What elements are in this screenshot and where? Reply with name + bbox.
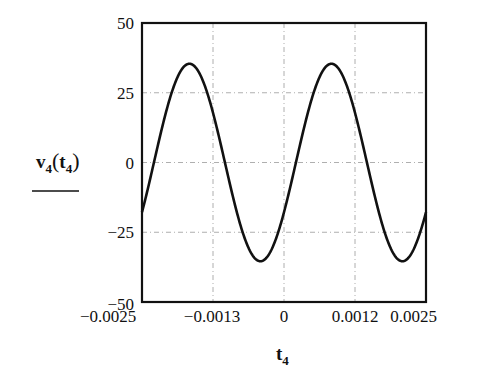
ylabel-func: v (36, 151, 46, 172)
x-tick-label: −0.0025 (80, 307, 136, 326)
svg-text:t4: t4 (276, 343, 289, 368)
chart: 50250−25−50 −0.0025−0.001300.00120.0025 … (0, 0, 482, 388)
x-axis-label: t4 (276, 343, 289, 368)
y-axis-tick-labels: 50250−25−50 (107, 14, 134, 314)
y-tick-label: −25 (107, 223, 134, 242)
x-tick-label: 0 (280, 307, 289, 326)
y-axis-label: v4(t4) (32, 148, 79, 191)
y-tick-label: 50 (117, 14, 134, 33)
x-axis-tick-labels: −0.0025−0.001300.00120.0025 (80, 307, 437, 326)
xlabel-sub: 4 (282, 353, 289, 368)
y-tick-label: 25 (117, 84, 134, 103)
x-tick-label: 0.0025 (390, 307, 437, 326)
y-tick-label: 0 (126, 154, 135, 173)
x-tick-label: 0.0012 (332, 307, 379, 326)
svg-text:v4(t4): v4(t4) (36, 148, 79, 176)
x-tick-label: −0.0013 (184, 307, 240, 326)
